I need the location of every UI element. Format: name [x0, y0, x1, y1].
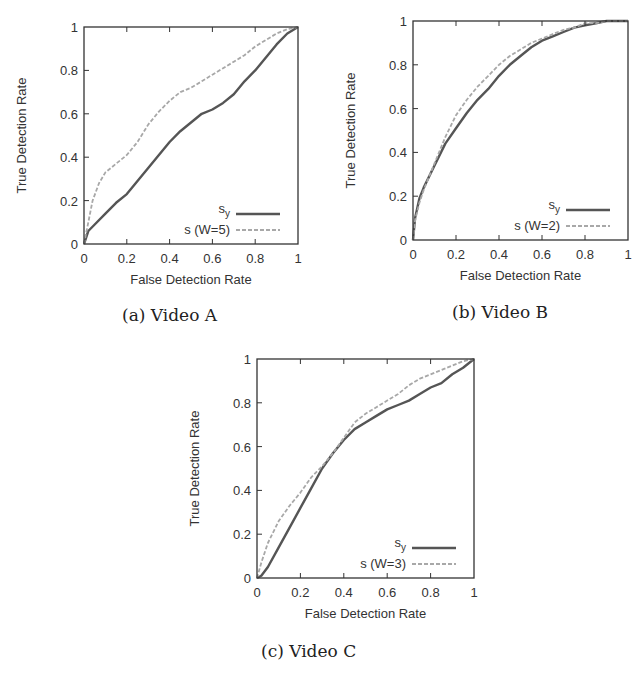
x-tick-label: 0.2	[118, 251, 136, 266]
y-tick-label: 1	[244, 352, 251, 367]
series-line-s-window	[84, 27, 298, 244]
y-tick-label: 0	[244, 571, 251, 586]
x-tick-label: 0.4	[490, 247, 508, 262]
y-tick-label: 0	[400, 233, 407, 248]
x-tick-label: 1	[294, 251, 301, 266]
caption-video-b: (b) Video B	[452, 302, 548, 322]
x-tick-label: 0.4	[335, 585, 353, 600]
legend: sys (W=5)	[184, 201, 280, 237]
series-line-sy	[413, 21, 628, 240]
series-line-s-window	[413, 21, 628, 240]
x-tick-label: 0.2	[291, 585, 309, 600]
y-tick-label: 0.4	[60, 150, 78, 165]
y-tick-label: 0.8	[389, 58, 407, 73]
caption-video-a: (a) Video A	[122, 305, 217, 325]
x-tick-label: 0	[253, 585, 260, 600]
x-tick-label: 0.2	[447, 247, 465, 262]
series-line-s-window	[257, 359, 474, 578]
legend-label: sy	[549, 197, 561, 215]
roc-figures: 00.20.40.60.8100.20.40.60.81False Detect…	[0, 0, 643, 682]
y-tick-label: 0.8	[233, 396, 251, 411]
figure-stage: 00.20.40.60.8100.20.40.60.81False Detect…	[0, 0, 643, 682]
series-line-sy	[84, 27, 298, 244]
y-tick-label: 0	[71, 237, 78, 252]
y-tick-label: 0.4	[389, 145, 407, 160]
x-tick-label: 0.4	[161, 251, 179, 266]
x-tick-label: 0.6	[533, 247, 551, 262]
y-tick-label: 0.4	[233, 483, 251, 498]
x-axis-label: False Detection Rate	[305, 606, 426, 621]
x-tick-label: 0.8	[422, 585, 440, 600]
x-tick-label: 1	[624, 247, 631, 262]
x-axis-label: False Detection Rate	[130, 272, 251, 287]
y-tick-label: 0.8	[60, 63, 78, 78]
plot-frame	[413, 21, 628, 240]
series-line-sy	[257, 359, 474, 578]
roc-chart-video-c: 00.20.40.60.8100.20.40.60.81False Detect…	[187, 352, 478, 621]
x-tick-label: 1	[470, 585, 477, 600]
caption-video-c: (c) Video C	[261, 641, 356, 661]
y-tick-label: 0.6	[233, 440, 251, 455]
y-tick-label: 0.2	[60, 194, 78, 209]
legend: sys (W=3)	[360, 535, 456, 571]
x-tick-label: 0	[409, 247, 416, 262]
y-axis-label: True Detection Rate	[343, 73, 358, 189]
legend-label: sy	[395, 535, 407, 553]
legend: sys (W=2)	[514, 197, 610, 233]
legend-label: s (W=2)	[514, 218, 560, 233]
x-tick-label: 0.6	[378, 585, 396, 600]
y-tick-label: 0.2	[233, 527, 251, 542]
y-tick-label: 1	[400, 14, 407, 29]
y-tick-label: 1	[71, 20, 78, 35]
y-tick-label: 0.2	[389, 189, 407, 204]
plot-frame	[257, 359, 474, 578]
legend-label: s (W=3)	[360, 556, 406, 571]
roc-chart-video-a: 00.20.40.60.8100.20.40.60.81False Detect…	[14, 20, 302, 287]
x-tick-label: 0.8	[246, 251, 264, 266]
x-tick-label: 0.6	[203, 251, 221, 266]
legend-label: sy	[219, 201, 231, 219]
roc-chart-video-b: 00.20.40.60.8100.20.40.60.81False Detect…	[343, 14, 632, 283]
y-tick-label: 0.6	[389, 102, 407, 117]
y-tick-label: 0.6	[60, 107, 78, 122]
plot-frame	[84, 27, 298, 244]
x-tick-label: 0	[80, 251, 87, 266]
y-axis-label: True Detection Rate	[14, 78, 29, 194]
x-axis-label: False Detection Rate	[460, 268, 581, 283]
legend-label: s (W=5)	[184, 222, 230, 237]
y-axis-label: True Detection Rate	[187, 411, 202, 527]
x-tick-label: 0.8	[576, 247, 594, 262]
